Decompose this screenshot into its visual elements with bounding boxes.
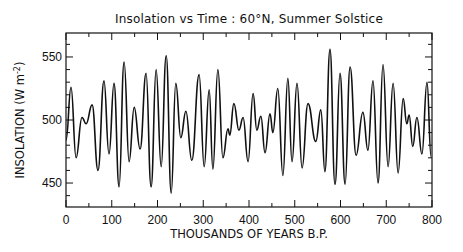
x-axis-label: THOUSANDS OF YEARS B.P. — [66, 227, 432, 241]
svg-text:700: 700 — [376, 213, 396, 227]
svg-text:200: 200 — [147, 213, 167, 227]
y-axis-label: INSOLATION (W m-2) — [13, 62, 28, 179]
insolation-line — [66, 49, 431, 193]
y-axis-label-close: ) — [13, 62, 27, 67]
svg-text:450: 450 — [42, 176, 62, 190]
insolation-chart: 0100200300400500600700800450500550 — [0, 0, 463, 252]
svg-text:800: 800 — [422, 213, 442, 227]
svg-text:400: 400 — [239, 213, 259, 227]
svg-text:500: 500 — [285, 213, 305, 227]
svg-text:500: 500 — [42, 113, 62, 127]
y-axis-label-exponent: -2 — [13, 66, 22, 74]
chart-title: Insolation vs Time : 60°N, Summer Solsti… — [66, 12, 432, 26]
svg-text:300: 300 — [193, 213, 213, 227]
svg-text:550: 550 — [42, 50, 62, 64]
svg-text:600: 600 — [330, 213, 350, 227]
y-axis-label-text: INSOLATION (W m — [13, 74, 27, 178]
svg-text:100: 100 — [102, 213, 122, 227]
svg-text:0: 0 — [63, 213, 70, 227]
